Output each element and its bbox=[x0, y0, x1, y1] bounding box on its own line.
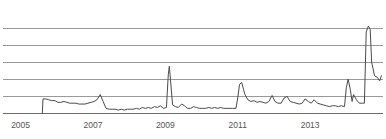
data-line-series-1 bbox=[42, 26, 381, 114]
line-chart: 20052007200920112013 bbox=[0, 0, 386, 139]
data-series bbox=[42, 26, 381, 114]
x-tick-label-2005: 2005 bbox=[11, 120, 30, 130]
x-tick-label-2013: 2013 bbox=[301, 120, 320, 130]
gridlines bbox=[3, 29, 383, 97]
x-tick-label-2009: 2009 bbox=[156, 120, 175, 130]
chart-canvas: 20052007200920112013 bbox=[0, 0, 386, 139]
x-axis-tick-labels: 20052007200920112013 bbox=[11, 120, 320, 130]
x-tick-label-2011: 2011 bbox=[229, 120, 248, 130]
x-tick-label-2007: 2007 bbox=[84, 120, 103, 130]
